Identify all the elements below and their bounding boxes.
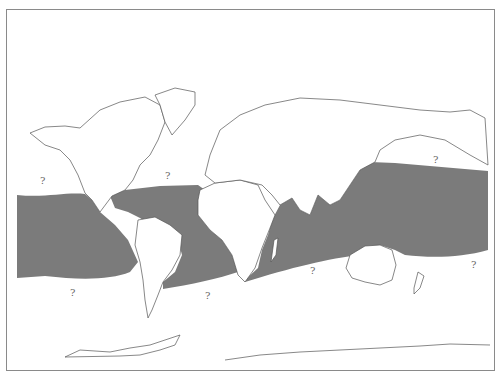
antarctica-east: [225, 344, 490, 360]
uncertainty-marker: ?: [70, 288, 75, 298]
uncertainty-marker: ?: [471, 260, 476, 270]
uncertainty-marker: ?: [165, 171, 170, 181]
antarctica-west: [65, 335, 180, 357]
new-zealand: [414, 272, 424, 294]
uncertainty-marker: ?: [433, 155, 438, 165]
world-map: [0, 0, 502, 382]
uncertainty-marker: ?: [40, 176, 45, 186]
south-america: [135, 217, 182, 318]
uncertainty-marker: ?: [310, 266, 315, 276]
uncertainty-marker: ?: [205, 291, 210, 301]
